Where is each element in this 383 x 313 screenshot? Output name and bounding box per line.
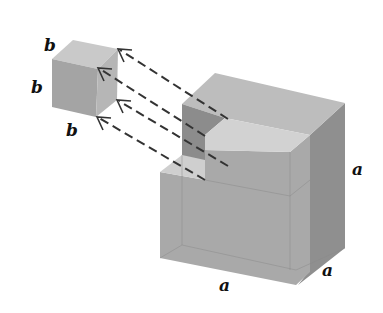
large-cube-label-height: a bbox=[352, 159, 363, 179]
large-cube-label-depth: a bbox=[322, 260, 333, 280]
large-cube bbox=[160, 73, 345, 285]
cube-diagram: b b b a a a bbox=[0, 0, 383, 313]
arrowhead-4-icon bbox=[97, 117, 111, 130]
small-cube-front-face bbox=[52, 59, 98, 117]
large-cube-label-width: a bbox=[219, 275, 230, 295]
small-cube bbox=[52, 40, 118, 117]
small-cube-label-bottom: b bbox=[66, 120, 78, 140]
small-cube-label-left: b bbox=[31, 77, 43, 97]
small-cube-label-top: b bbox=[44, 35, 56, 55]
